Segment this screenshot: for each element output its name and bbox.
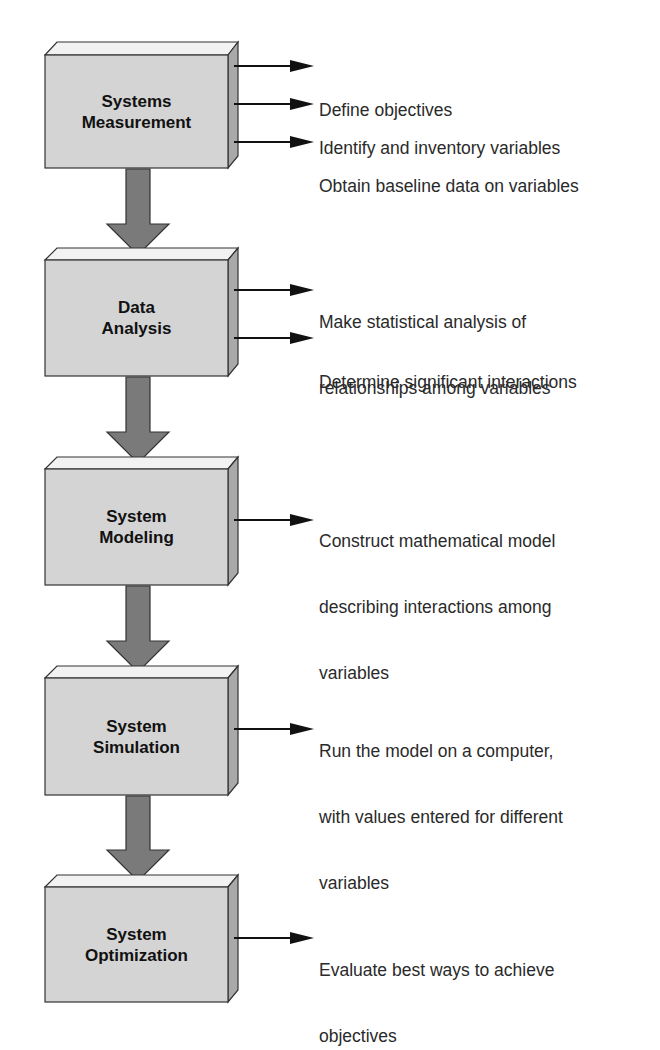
step-title-line: Modeling xyxy=(45,527,228,548)
step-title-line: Systems xyxy=(45,91,228,112)
output-arrow-statistical-analysis xyxy=(234,284,314,296)
step-title-systems-measurement: Systems Measurement xyxy=(45,91,228,133)
output-line: variables xyxy=(319,872,563,894)
output-line: Determine significant interactions xyxy=(319,371,577,393)
output-arrow-run-model xyxy=(234,723,314,735)
step-title-system-modeling: System Modeling xyxy=(45,506,228,548)
step-title-line: System xyxy=(45,924,228,945)
step-title-line: System xyxy=(45,506,228,527)
output-line: with values entered for different xyxy=(319,806,563,828)
flow-arrow-1-2 xyxy=(107,169,169,255)
output-line: objectives xyxy=(319,1025,554,1047)
flow-arrow-3-4 xyxy=(107,586,169,672)
step-title-line: Analysis xyxy=(45,318,228,339)
output-text-evaluate: Evaluate best ways to achieve objectives xyxy=(319,915,554,1050)
step-title-line: Data xyxy=(45,297,228,318)
step-title-system-optimization: System Optimization xyxy=(45,924,228,966)
step-title-line: System xyxy=(45,716,228,737)
flow-arrow-4-5 xyxy=(107,796,169,881)
output-arrow-define-objectives xyxy=(234,60,314,72)
step-title-system-simulation: System Simulation xyxy=(45,716,228,758)
output-text-run-model: Run the model on a computer, with values… xyxy=(319,696,563,916)
output-arrow-identify-variables xyxy=(234,98,314,110)
step-title-line: Optimization xyxy=(45,945,228,966)
output-text-significant-interactions: Determine significant interactions xyxy=(319,327,577,415)
output-line: variables xyxy=(319,662,555,684)
output-text-baseline-data: Obtain baseline data on variables xyxy=(319,131,579,219)
output-arrow-construct-model xyxy=(234,514,314,526)
output-line: describing interactions among xyxy=(319,596,555,618)
step-title-line: Measurement xyxy=(45,112,228,133)
output-arrow-baseline-data xyxy=(234,136,314,148)
output-line: Run the model on a computer, xyxy=(319,740,563,762)
output-line: Evaluate best ways to achieve xyxy=(319,959,554,981)
output-line: Obtain baseline data on variables xyxy=(319,175,579,197)
step-title-data-analysis: Data Analysis xyxy=(45,297,228,339)
output-line: Construct mathematical model xyxy=(319,530,555,552)
output-arrow-evaluate xyxy=(234,932,314,944)
flow-arrow-2-3 xyxy=(107,377,169,463)
output-text-construct-model: Construct mathematical model describing … xyxy=(319,486,555,706)
output-arrow-significant-interactions xyxy=(234,332,314,344)
step-title-line: Simulation xyxy=(45,737,228,758)
